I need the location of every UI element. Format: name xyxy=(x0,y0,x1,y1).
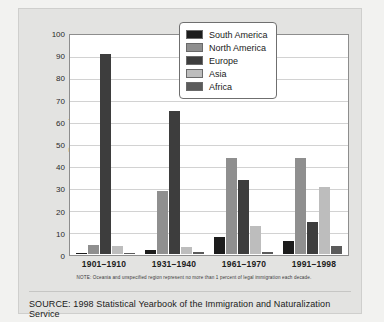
bar xyxy=(112,246,123,255)
bar-group xyxy=(71,36,140,254)
y-tick-label: 80 xyxy=(41,74,65,83)
bar xyxy=(250,226,261,254)
bar xyxy=(226,158,237,254)
legend-item: Africa xyxy=(186,80,268,93)
y-tick-label: 20 xyxy=(41,207,65,216)
chart-source: SOURCE: 1998 Statistical Yearbook of the… xyxy=(29,299,351,319)
bar xyxy=(157,191,168,254)
y-axis-tick-labels: 1009080706050403020100 xyxy=(41,34,65,256)
legend-label: Asia xyxy=(209,69,227,79)
bar xyxy=(76,253,87,254)
y-tick-label: 90 xyxy=(41,52,65,61)
legend-label: North America xyxy=(209,43,266,53)
legend-label: Europe xyxy=(209,56,238,66)
chart-figure: Percentage 1009080706050403020100 South … xyxy=(18,8,362,314)
legend-label: South America xyxy=(209,30,268,40)
x-tick-label: 1961–1970 xyxy=(209,259,279,269)
legend-item: North America xyxy=(186,41,268,54)
bar xyxy=(295,158,306,254)
y-tick-label: 70 xyxy=(41,96,65,105)
legend-swatch-icon xyxy=(186,56,203,65)
legend-label: Africa xyxy=(209,82,232,92)
legend-item: Europe xyxy=(186,54,268,67)
bar xyxy=(307,222,318,254)
bar xyxy=(283,241,294,254)
bar xyxy=(193,252,204,254)
bar xyxy=(262,252,273,254)
y-tick-label: 10 xyxy=(41,229,65,238)
legend-item: South America xyxy=(186,28,268,41)
legend-swatch-icon xyxy=(186,82,203,91)
y-tick-label: 50 xyxy=(41,141,65,150)
bar xyxy=(331,246,342,255)
bar xyxy=(88,245,99,254)
bar xyxy=(100,54,111,254)
x-tick-label: 1901–1910 xyxy=(69,259,139,269)
x-axis-tick-labels: 1901–19101931–19401961–19701991–1998 xyxy=(69,259,349,269)
legend-swatch-icon xyxy=(186,30,203,39)
bar xyxy=(181,247,192,254)
source-divider xyxy=(29,291,351,292)
bar xyxy=(169,111,180,254)
legend-item: Asia xyxy=(186,67,268,80)
y-tick-label: 100 xyxy=(41,30,65,39)
y-tick-label: 60 xyxy=(41,118,65,127)
x-tick-label: 1991–1998 xyxy=(279,259,349,269)
legend-swatch-icon xyxy=(186,69,203,78)
y-tick-label: 30 xyxy=(41,185,65,194)
y-tick-label: 0 xyxy=(41,252,65,261)
bar xyxy=(238,180,249,254)
x-tick-label: 1931–1940 xyxy=(139,259,209,269)
bar xyxy=(124,253,135,254)
legend-swatch-icon xyxy=(186,43,203,52)
bar xyxy=(145,250,156,254)
chart-note: NOTE: Oceania and unspecified region rep… xyxy=(49,275,339,280)
bar xyxy=(319,187,330,254)
bar-group xyxy=(278,36,347,254)
y-tick-label: 40 xyxy=(41,163,65,172)
bar xyxy=(214,237,225,254)
chart-legend: South AmericaNorth AmericaEuropeAsiaAfri… xyxy=(179,22,277,99)
